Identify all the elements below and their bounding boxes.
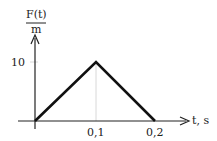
x-axis-label: t, s	[192, 114, 209, 127]
y-label-denominator: m	[31, 23, 41, 36]
x-tick-0.1: 0,1	[87, 126, 105, 139]
force-time-diagram	[0, 0, 217, 141]
y-tick-10: 10	[11, 56, 25, 69]
y-label-numerator: F(t)	[26, 8, 47, 21]
x-tick-0.2: 0,2	[146, 126, 164, 139]
force-curve	[35, 62, 155, 121]
